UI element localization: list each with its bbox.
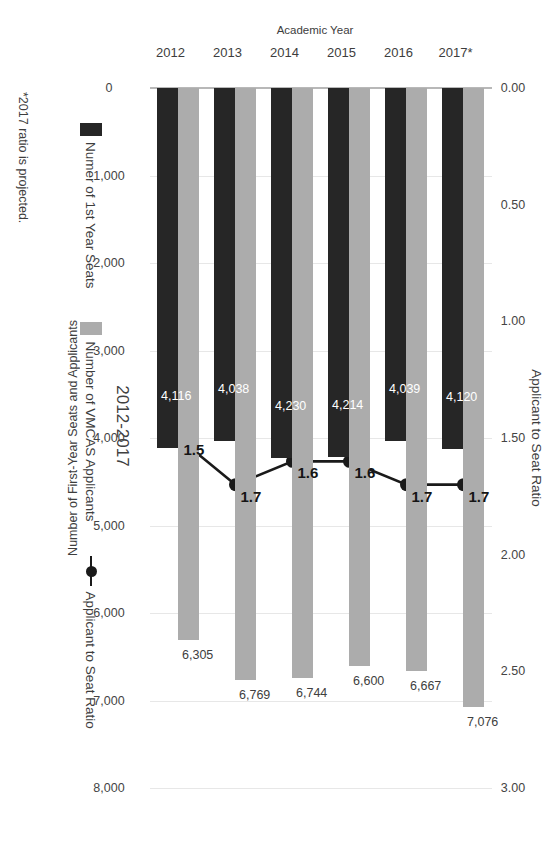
bar-cluster: 6,7694,038	[207, 88, 264, 788]
bar-applicants[interactable]	[179, 88, 200, 640]
bar-value-label-seats: 4,038	[218, 382, 249, 396]
category-axis-label: 2017*	[439, 45, 473, 60]
chart-screenshot: 2012-2017 Numer of 1st Year SeatsNumber …	[0, 0, 550, 852]
secondary-axis-title: Applicant to Seat Ratio	[529, 88, 544, 788]
category-axis-label: 2013	[214, 45, 243, 60]
primary-axis-tick-label: 1,000	[93, 169, 124, 183]
secondary-axis-tick-label: 2.00	[501, 548, 525, 562]
bar-cluster: 6,3054,116	[150, 88, 207, 788]
secondary-axis-tick-label: 1.50	[501, 431, 525, 445]
ratio-value-label: 1.7	[412, 487, 433, 504]
bar-value-label-seats: 4,039	[389, 382, 420, 396]
secondary-axis-tick-label: 0.50	[501, 198, 525, 212]
primary-axis-tick-label: 2,000	[93, 256, 124, 270]
bar-value-label-seats: 4,230	[275, 399, 306, 413]
category-axis-label: 2012	[157, 45, 186, 60]
primary-axis-tick-label: 3,000	[93, 344, 124, 358]
bar-applicants[interactable]	[293, 88, 314, 678]
category-axis-title: Academic Year	[277, 24, 354, 36]
bar-applicants[interactable]	[350, 88, 371, 666]
chart-legend: Numer of 1st Year SeatsNumber of VMCAS A…	[80, 0, 102, 852]
bar-cluster: 6,6004,214	[321, 88, 378, 788]
primary-axis-tick-label: 6,000	[93, 606, 124, 620]
category-axis-label: 2015	[328, 45, 357, 60]
bar-cluster: 6,6674,039	[378, 88, 435, 788]
chart-footnote: *2017 ratio is projected.	[16, 92, 30, 223]
secondary-axis-tick-label: 3.00	[501, 781, 525, 795]
ratio-value-label: 1.6	[355, 464, 376, 481]
primary-axis-tick-label: 7,000	[93, 694, 124, 708]
category-axis-label: 2014	[271, 45, 300, 60]
legend-line-marker-icon	[84, 556, 98, 586]
primary-axis-title: Number of First-Year Seats and Applicant…	[66, 88, 80, 788]
primary-axis-tick-label: 4,000	[93, 431, 124, 445]
primary-axis-tick-label: 0	[106, 81, 113, 95]
bar-cluster: 7,0764,120	[435, 88, 492, 788]
bar-value-label-seats: 4,116	[161, 389, 191, 403]
primary-axis-tick-label: 5,000	[93, 519, 124, 533]
ratio-value-label: 1.6	[298, 464, 319, 481]
primary-axis-tick-label: 8,000	[93, 781, 124, 795]
bar-value-label-seats: 4,120	[446, 390, 477, 404]
page-title: 2012-2017	[112, 0, 132, 852]
ratio-value-label: 1.5	[184, 441, 205, 458]
plot-area: 6,3054,1166,7694,0386,7444,2306,6004,214…	[150, 88, 492, 788]
legend-swatch-icon	[80, 123, 102, 136]
gridline	[150, 788, 492, 789]
chart-figure: 2012-2017 Numer of 1st Year SeatsNumber …	[0, 0, 550, 852]
ratio-value-label: 1.7	[469, 487, 490, 504]
bar-applicants[interactable]	[407, 88, 428, 671]
ratio-value-label: 1.7	[241, 487, 262, 504]
secondary-axis-tick-label: 2.50	[501, 664, 525, 678]
bar-value-label-seats: 4,214	[332, 398, 363, 412]
legend-swatch-icon	[80, 322, 102, 335]
bar-value-label-applicants: 7,076	[467, 715, 498, 729]
category-axis-label: 2016	[385, 45, 414, 60]
bar-cluster: 6,7444,230	[264, 88, 321, 788]
secondary-axis-tick-label: 1.00	[501, 314, 525, 328]
secondary-axis-tick-label: 0.00	[501, 81, 525, 95]
